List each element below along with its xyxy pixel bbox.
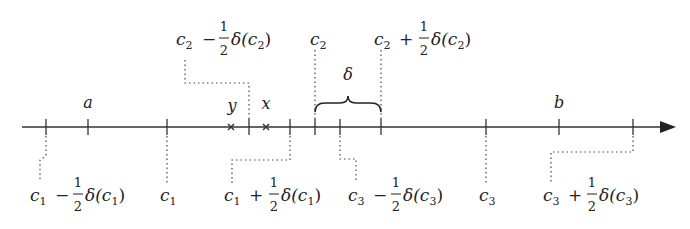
- svg-text:1: 1: [392, 175, 400, 190]
- svg-text:c2: c2: [374, 29, 391, 52]
- svg-text:c3: c3: [543, 185, 560, 208]
- svg-text:+: +: [249, 185, 263, 205]
- svg-text:1: 1: [420, 19, 428, 34]
- svg-text:1: 1: [220, 19, 228, 34]
- label-c1: c1: [160, 185, 177, 208]
- svg-text:c2: c2: [176, 29, 193, 52]
- label-a: a: [83, 93, 93, 112]
- svg-text:−: −: [202, 29, 216, 49]
- svg-text:c1: c1: [224, 185, 241, 208]
- label-c3: c3: [479, 185, 496, 208]
- label-point-y: y: [226, 96, 237, 115]
- svg-text:2: 2: [220, 43, 228, 58]
- axis-arrow-icon: [660, 121, 676, 133]
- delta-brace: [315, 96, 381, 112]
- svg-text:2: 2: [392, 199, 400, 214]
- guide-c3-minus: [340, 136, 356, 183]
- svg-text:1: 1: [270, 175, 278, 190]
- guide-c2-minus: [185, 60, 249, 119]
- label-c1-minus-half-delta: c1 − 1 2 δ(c1): [30, 175, 125, 214]
- svg-text:+: +: [568, 185, 582, 205]
- svg-text:2: 2: [588, 199, 596, 214]
- svg-text:δ(c1): δ(c1): [281, 185, 321, 208]
- svg-text:δ(c2): δ(c2): [231, 29, 271, 52]
- label-delta: δ: [343, 65, 353, 84]
- svg-text:−: −: [55, 185, 69, 205]
- label-point-x: x: [261, 94, 270, 113]
- label-c2-plus-half-delta: c2 + 1 2 δ(c2): [374, 19, 471, 58]
- guide-c1-plus: [232, 136, 290, 183]
- svg-text:+: +: [399, 29, 413, 49]
- label-c1-plus-half-delta: c1 + 1 2 δ(c1): [224, 175, 321, 214]
- svg-text:−: −: [373, 185, 387, 205]
- svg-text:c1: c1: [30, 185, 47, 208]
- svg-text:2: 2: [420, 43, 428, 58]
- svg-text:δ(c3): δ(c3): [599, 185, 639, 208]
- svg-text:2: 2: [270, 199, 278, 214]
- guide-c1-minus: [40, 136, 46, 180]
- label-c2-minus-half-delta: c2 − 1 2 δ(c2): [176, 19, 271, 58]
- label-b: b: [554, 93, 564, 112]
- label-c3-minus-half-delta: c3 − 1 2 δ(c3): [348, 175, 443, 214]
- svg-text:δ(c3): δ(c3): [403, 185, 443, 208]
- svg-text:1: 1: [588, 175, 596, 190]
- svg-text:δ(c2): δ(c2): [431, 29, 471, 52]
- number-line-diagram: a b y x δ c2 c2 − 1 2 δ(c2) c2 + 1 2 δ(c…: [0, 0, 690, 229]
- svg-text:2: 2: [74, 199, 82, 214]
- svg-text:c3: c3: [348, 185, 365, 208]
- svg-text:δ(c1): δ(c1): [85, 185, 125, 208]
- label-c2: c2: [310, 29, 327, 52]
- svg-text:1: 1: [74, 175, 82, 190]
- label-c3-plus-half-delta: c3 + 1 2 δ(c3): [543, 175, 639, 214]
